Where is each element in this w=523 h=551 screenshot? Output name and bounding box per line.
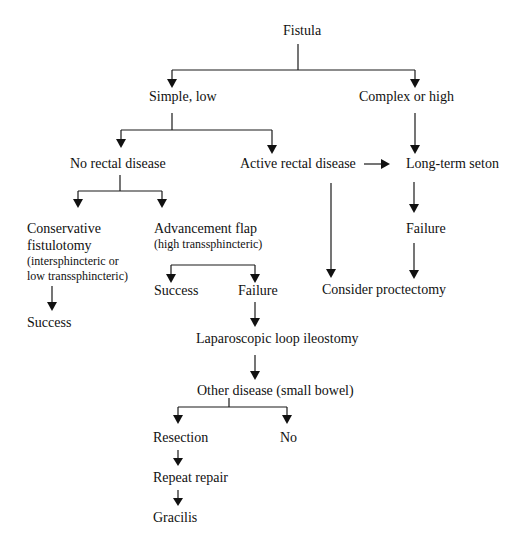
advancement-flap-sub: (high transsphincteric) [154,237,262,252]
arrowhead-complex-high [410,79,420,88]
node-laparoscopic-loop-ileostomy: Laparoscopic loop ileostomy [196,330,359,347]
node-active-rectal-disease: Active rectal disease [240,155,356,172]
arrowhead-simple-low [167,79,177,88]
arrowhead-gracilis [173,498,183,506]
node-consider-proctectomy: Consider proctectomy [322,281,446,298]
node-no: No [280,429,297,446]
node-other-disease: Other disease (small bowel) [197,382,354,399]
arrowhead-active-rectal [267,145,277,154]
arrowhead-active-to-seton [381,159,390,169]
node-flap-failure: Failure [238,282,278,299]
node-conservative-fistulotomy: Conservative fistulotomy (intersphincter… [27,220,128,284]
node-conservative-success: Success [27,314,71,331]
arrowhead-advancement [157,199,167,208]
arrowhead-ileostomy [250,318,260,327]
arrowhead-proctectomy-left [326,269,336,278]
node-flap-success: Success [154,282,198,299]
node-advancement-flap: Advancement flap (high transsphincteric) [154,220,262,252]
arrowhead-conservative-success [47,302,57,311]
node-repeat-repair: Repeat repair [153,469,228,486]
advancement-flap-label: Advancement flap [154,220,262,237]
node-complex-high: Complex or high [359,88,454,105]
arrowhead-repeat-repair [173,458,183,466]
conservative-line1: Conservative [27,220,128,237]
conservative-sub1: (intersphincteric or [27,254,128,269]
flowchart: Fistula Simple, low Complex or high No r… [0,0,523,551]
node-gracilis: Gracilis [153,509,197,526]
node-long-term-seton: Long-term seton [406,155,499,172]
arrowhead-no-rectal [116,139,126,148]
node-fistula: Fistula [283,22,321,39]
node-simple-low: Simple, low [149,88,217,105]
node-resection: Resection [153,429,208,446]
conservative-sub2: low transsphincteric) [27,269,128,284]
arrowhead-no [282,415,292,424]
arrowhead-conservative [73,199,83,208]
arrowhead-other-disease [250,371,260,380]
arrowhead-resection [173,415,183,424]
arrowhead-proctectomy-right [409,270,419,279]
arrowhead-seton-failure [409,204,419,213]
node-seton-failure: Failure [406,220,446,237]
node-no-rectal-disease: No rectal disease [70,155,166,172]
arrowhead-seton [410,145,420,154]
conservative-line2: fistulotomy [27,237,128,254]
